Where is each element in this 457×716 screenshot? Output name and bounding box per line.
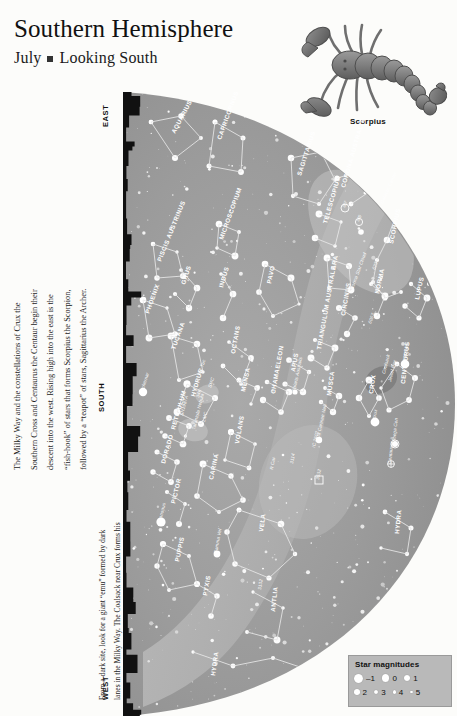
star-chart-page: Southern Hemisphere JulyLooking South <box>0 0 457 716</box>
star-dot-icon <box>382 674 390 682</box>
legend-label: 1 <box>413 674 417 683</box>
star-dot-icon <box>354 674 363 683</box>
legend-item: 0 <box>382 674 397 683</box>
legend-item: 3 <box>374 688 386 697</box>
legend-row: –101 <box>354 671 446 685</box>
star-magnitudes-legend: Star magnitudes –101 2345 <box>348 655 452 707</box>
legend-label: 2 <box>363 688 367 697</box>
legend-title: Star magnitudes <box>349 656 451 671</box>
bullet-square-icon <box>47 56 53 62</box>
legend-label: 3 <box>381 688 385 697</box>
desc-line: descent into the west. Rising high into … <box>43 100 60 470</box>
desc-line: The Milky Way and the constellations of … <box>10 100 27 470</box>
desc-line: “fish-hook” of stars that forms Scorpius… <box>60 100 77 470</box>
desc-line: followed by a “teapot” of stars, Sagitta… <box>76 100 93 470</box>
page-title: Southern Hemisphere <box>14 16 294 42</box>
legend-label: 4 <box>399 688 403 697</box>
page-subtitle: JulyLooking South <box>14 49 294 67</box>
legend-label: –1 <box>366 674 375 683</box>
description-left-column: The Milky Way and the constellations of … <box>10 100 93 470</box>
legend-item: 5 <box>410 688 420 697</box>
desc-line: Southern Cross and Centaurus the Centaur… <box>27 100 44 470</box>
subtitle-view: Looking South <box>59 49 157 66</box>
compass-label-east: EAST <box>101 105 110 127</box>
star-dot-icon <box>374 690 378 694</box>
legend-item: 2 <box>354 688 367 697</box>
legend-item: –1 <box>354 674 375 683</box>
compass-label-south: SOUTH <box>97 383 106 412</box>
subtitle-month: July <box>14 49 41 66</box>
sky-chart[interactable]: AQUARIUSCAPRICORNUSSAGITTARIUSMICROSCOPI… <box>123 92 457 716</box>
desc-line: From a dark site, look for a giant “emu”… <box>95 410 110 700</box>
title-block: Southern Hemisphere JulyLooking South <box>14 16 294 67</box>
legend-row: 2345 <box>354 685 446 699</box>
legend-item: 1 <box>404 674 418 683</box>
star-dot-icon <box>404 675 411 682</box>
legend-item: 4 <box>393 688 404 697</box>
legend-label: 0 <box>392 674 396 683</box>
star-dot-icon <box>354 689 360 695</box>
constellation-label: CORONA AUSTRALIS <box>339 118 365 189</box>
legend-label: 5 <box>416 688 420 697</box>
deep-sky-object-label: Galactic Center <box>379 171 397 204</box>
star-dot-icon <box>393 690 396 693</box>
star-dot-icon <box>410 691 412 693</box>
